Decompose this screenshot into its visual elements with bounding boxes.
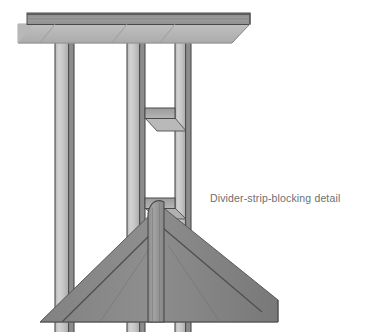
diagram-canvas: Divider-strip-blocking detail	[0, 0, 378, 332]
divider-strip	[148, 201, 164, 322]
diagram-caption: Divider-strip-blocking detail	[210, 192, 340, 204]
divider-strip-blocking-diagram	[0, 0, 378, 332]
stud-left	[55, 24, 74, 332]
